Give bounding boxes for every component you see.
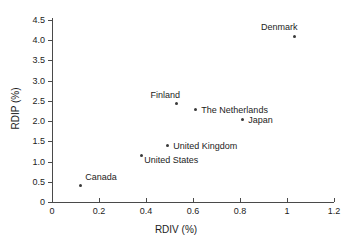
y-tick-label: 2.0 <box>19 117 45 126</box>
y-tick <box>48 202 52 203</box>
y-tick-label: 2.5 <box>19 97 45 106</box>
x-tick <box>287 198 288 202</box>
x-tick-label: 0.6 <box>178 207 208 216</box>
x-tick <box>52 198 53 202</box>
data-point <box>166 144 169 147</box>
x-tick <box>240 198 241 202</box>
y-tick-label: 3.5 <box>19 56 45 65</box>
y-tick <box>48 141 52 142</box>
y-axis-line <box>52 18 53 203</box>
data-point-label: United Kingdom <box>173 142 237 151</box>
data-point-label: Denmark <box>261 23 298 32</box>
x-tick <box>99 198 100 202</box>
data-point <box>241 118 244 121</box>
x-axis-title: RDIV (%) <box>0 224 352 235</box>
data-point <box>175 102 178 105</box>
data-point-label: Canada <box>85 173 117 182</box>
y-tick <box>48 40 52 41</box>
data-point <box>194 108 197 111</box>
x-tick-label: 1 <box>272 207 302 216</box>
y-tick-label: 0.5 <box>19 178 45 187</box>
data-point-label: Finland <box>151 91 181 100</box>
data-point <box>140 154 143 157</box>
y-tick <box>48 60 52 61</box>
y-tick <box>48 121 52 122</box>
data-point-label: The Netherlands <box>201 106 268 115</box>
data-point-label: Japan <box>248 116 273 125</box>
x-tick-label: 1.2 <box>319 207 349 216</box>
y-axis-title: RDIP (%) <box>10 59 21 159</box>
x-tick <box>146 198 147 202</box>
y-tick <box>48 20 52 21</box>
x-tick-label: 0.4 <box>131 207 161 216</box>
y-tick-label: 1.0 <box>19 158 45 167</box>
data-point-label: United States <box>144 156 198 165</box>
x-axis-line <box>52 202 334 203</box>
x-tick-label: 0 <box>37 207 67 216</box>
y-tick-label: 0 <box>19 198 45 207</box>
x-tick-label: 0.2 <box>84 207 114 216</box>
y-tick <box>48 162 52 163</box>
x-tick-label: 0.8 <box>225 207 255 216</box>
data-point <box>293 35 296 38</box>
y-tick <box>48 101 52 102</box>
scatter-chart: 00.51.01.52.02.53.03.54.04.5 00.20.40.60… <box>0 0 352 244</box>
data-point <box>79 184 82 187</box>
y-tick-label: 3.0 <box>19 77 45 86</box>
y-tick-label: 4.0 <box>19 36 45 45</box>
y-tick-label: 1.5 <box>19 137 45 146</box>
x-tick <box>193 198 194 202</box>
y-tick-label: 4.5 <box>19 16 45 25</box>
x-tick <box>334 198 335 202</box>
y-tick <box>48 182 52 183</box>
y-tick <box>48 81 52 82</box>
